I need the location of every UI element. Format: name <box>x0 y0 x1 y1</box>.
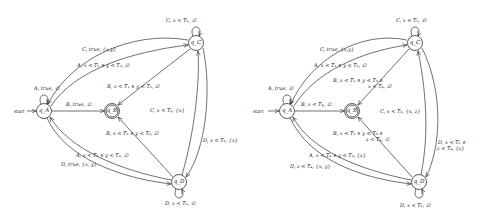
edge-label-d-a: A, x < T₂ ∧ y < T₂, ∅ <box>75 152 129 159</box>
edge-label-d-b-2: z < T₄, ∅ <box>365 136 390 142</box>
edge-label-a-c: A, x < T₁ ∧ y < T₂, ∅ <box>313 62 367 69</box>
edge-c-d <box>422 48 438 177</box>
svg-text:q_C: q_C <box>410 39 421 46</box>
edge-c-self <box>411 27 419 36</box>
edge-a-self <box>40 95 48 104</box>
edge-d-c <box>182 51 198 175</box>
edge-label-a-self: A, true, ∅ <box>267 85 294 91</box>
edge-label-a-d: D, z < T₄, {x, y} <box>289 163 331 170</box>
edge-c-self <box>192 27 200 36</box>
state-qa: q_A <box>37 104 52 119</box>
edge-label-a-b: B, x < T₄, ∅ <box>300 101 332 107</box>
edge-a-c <box>294 45 407 106</box>
edge-label-c-d-2: z < T₄, {z} <box>436 145 465 151</box>
edge-label-a-self: A, true, ∅ <box>33 85 60 91</box>
edge-label-c-b-2: x < T₄, ∅ <box>368 83 392 89</box>
start-label: start <box>253 109 264 114</box>
edge-label-d-self: D, x < T₂, ∅ <box>399 202 431 208</box>
edge-d-self <box>175 189 183 198</box>
automaton-left: start A, true, ∅ B, true, ∅ C, true, {x,… <box>14 17 238 206</box>
edge-a-d <box>47 118 171 184</box>
start-label: start <box>14 109 25 114</box>
edge-c-d <box>186 48 207 177</box>
state-qd: q_D <box>172 175 187 190</box>
edge-label-a-d: D, true, {x, y} <box>60 161 97 168</box>
state-qc: q_C <box>408 36 423 51</box>
edge-label-c-self: C, x < T₁, ∅ <box>396 17 427 23</box>
state-qb: q_B <box>345 104 360 119</box>
state-qa: q_A <box>280 104 295 119</box>
edge-label-c-self: C, x < T₁, ∅ <box>166 17 197 23</box>
svg-text:q_B: q_B <box>347 107 357 114</box>
svg-text:q_D: q_D <box>414 178 425 185</box>
state-qd: q_D <box>412 175 427 190</box>
svg-text:q_A: q_A <box>39 107 49 114</box>
edge-label-d-c: C, x < T₃, {x, z} <box>380 108 421 114</box>
edge-d-self <box>415 189 423 198</box>
edge-label-d-b: B, x < T₂ ∧ y < T₂, ∅ <box>105 130 159 137</box>
edge-c-b <box>118 49 190 105</box>
edge-label-c-b: B, x < T₁ ∧ y < T₂, ∅ <box>106 83 160 90</box>
edge-label-c-a: C, true, {x,y} <box>82 46 116 53</box>
edge-label-c-a: C, true, {x,y} <box>320 46 354 53</box>
edge-a-d <box>290 118 411 184</box>
automaton-right: start A, true, ∅ B, x < T₄, ∅ C, true, {… <box>253 17 466 208</box>
svg-text:q_D: q_D <box>174 178 185 185</box>
state-qc: q_C <box>189 36 204 51</box>
edge-a-self <box>283 95 291 104</box>
edge-label-a-c: A, x < T₁ ∧ y < T₂, ∅ <box>76 62 130 69</box>
svg-text:q_A: q_A <box>282 107 292 114</box>
edge-label-d-a: A, x < T₄ ∧ y < T₃, {z} <box>308 152 366 159</box>
edge-a-c <box>51 45 188 106</box>
automata-figure: start A, true, ∅ B, true, ∅ C, true, {x,… <box>0 0 480 222</box>
edge-d-a <box>50 117 171 180</box>
svg-text:q_B: q_B <box>107 107 117 114</box>
edge-label-d-c: C, x < T₂, {x} <box>150 107 185 113</box>
edge-label-d-self: D, x < T₂, ∅ <box>164 200 196 206</box>
edge-label-a-b: B, true, ∅ <box>65 101 92 107</box>
state-qb: q_B <box>105 104 120 119</box>
edge-label-c-d: D, x < T₁, {x} <box>202 137 238 143</box>
svg-text:q_C: q_C <box>191 39 202 46</box>
